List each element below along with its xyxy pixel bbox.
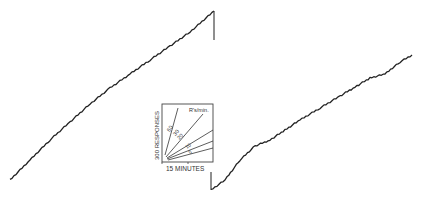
legend-title: R's/min. [189, 107, 209, 113]
curve-1 [10, 11, 214, 179]
slope-key-inset: R's/min. 60 30 20 10 5 300 RESPONSES 15 … [154, 104, 213, 172]
inset-y-label: 300 RESPONSES [154, 111, 160, 160]
curve-2 [211, 55, 412, 190]
inset-x-label: 15 MINUTES [166, 165, 205, 172]
cumulative-record-chart: R's/min. 60 30 20 10 5 300 RESPONSES 15 … [0, 0, 428, 202]
